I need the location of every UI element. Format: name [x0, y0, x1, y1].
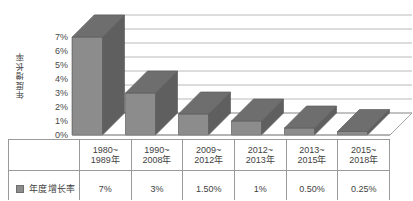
category-line-top-5: 2015~	[338, 145, 389, 156]
category-line-top-0: 1980~	[80, 145, 131, 156]
category-line-bottom-1: 2008年	[132, 155, 183, 166]
table-cell-category-3: 2012~ 2013年	[234, 140, 286, 171]
table-row-categories: 1980~ 1989年 1990~ 2008年 2009~ 2012年 2012…	[9, 140, 390, 171]
category-line-bottom-3: 2013年	[235, 155, 286, 166]
table-row-values: 年度增长率 7% 3% 1.50% 1% 0.50% 0.25%	[9, 171, 390, 201]
table-corner-cell	[9, 140, 80, 171]
table-cell-value-1: 3%	[131, 171, 183, 201]
bar-chart: 年度增长率 7% 6% 5% 4% 3% 2% 1% 0%	[0, 0, 413, 145]
category-line-top-1: 1990~	[132, 145, 183, 156]
plot-svg	[0, 0, 413, 145]
table-cell-category-5: 2015~ 2018年	[338, 140, 390, 171]
table-cell-value-0: 7%	[80, 171, 132, 201]
table-cell-category-0: 1980~ 1989年	[80, 140, 132, 171]
table-cell-value-4: 0.50%	[286, 171, 338, 201]
category-line-top-2: 2009~	[183, 145, 234, 156]
table-cell-value-5: 0.25%	[338, 171, 390, 201]
category-line-bottom-0: 1989年	[80, 155, 131, 166]
legend-cell: 年度增长率	[9, 171, 80, 201]
legend-swatch-icon	[16, 185, 24, 193]
data-table: 1980~ 1989年 1990~ 2008年 2009~ 2012年 2012…	[8, 139, 390, 200]
category-line-top-3: 2012~	[235, 145, 286, 156]
category-line-bottom-4: 2015年	[287, 155, 338, 166]
table-cell-category-2: 2009~ 2012年	[183, 140, 235, 171]
category-line-top-4: 2013~	[287, 145, 338, 156]
table-cell-value-3: 1%	[234, 171, 286, 201]
table-cell-category-4: 2013~ 2015年	[286, 140, 338, 171]
category-line-bottom-2: 2012年	[183, 155, 234, 166]
category-line-bottom-5: 2018年	[338, 155, 389, 166]
table-cell-value-2: 1.50%	[183, 171, 235, 201]
table-cell-category-1: 1990~ 2008年	[131, 140, 183, 171]
data-table-area: 1980~ 1989年 1990~ 2008年 2009~ 2012年 2012…	[8, 139, 390, 194]
legend-label: 年度增长率	[29, 184, 76, 195]
legend-entry: 年度增长率	[9, 184, 79, 195]
chart-screenshot: 年度增长率 7% 6% 5% 4% 3% 2% 1% 0% 1980~ 198	[0, 0, 413, 200]
